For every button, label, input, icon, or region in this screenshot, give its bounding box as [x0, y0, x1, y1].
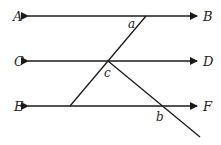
label-c-point: C	[14, 54, 24, 69]
angle-c-label: c	[104, 66, 111, 80]
angle-a-label: a	[128, 17, 135, 31]
geometry-diagram: A B C D E F a c b	[0, 0, 221, 145]
label-f-point: F	[202, 99, 213, 114]
label-b-point: B	[202, 9, 213, 24]
transversal-2	[108, 61, 200, 137]
angle-b-label: b	[156, 110, 164, 124]
diagram-canvas: A B C D E F a c b	[0, 0, 221, 145]
label-a-point: A	[12, 9, 22, 24]
label-d-point: D	[202, 54, 214, 69]
label-e-point: E	[13, 99, 24, 114]
